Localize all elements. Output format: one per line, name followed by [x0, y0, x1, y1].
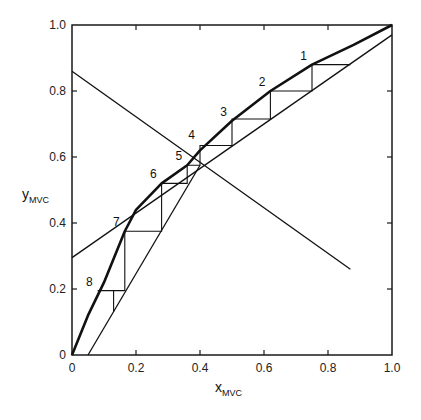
y-tick-label: 0.4	[49, 216, 66, 230]
x-tick-label: 0.4	[192, 361, 209, 375]
stage-label-6: 6	[150, 167, 157, 181]
plot-border	[72, 25, 392, 355]
stage-label-4: 4	[188, 128, 195, 142]
x-tick-label: 1.0	[384, 361, 401, 375]
chart-series	[72, 25, 392, 355]
stripping-operating-line	[88, 165, 200, 355]
x-tick-label: 0.6	[256, 361, 273, 375]
y-tick-label: 0	[59, 348, 66, 362]
y-tick-label: 0.6	[49, 150, 66, 164]
x-tick-label: 0.8	[320, 361, 337, 375]
q-line	[72, 71, 350, 269]
stage-label-3: 3	[220, 105, 227, 119]
y-axis-title: yMVC	[22, 186, 50, 205]
x-axis-title: xMVC	[215, 379, 243, 398]
x-tick-label: 0	[69, 361, 76, 375]
y-tick-label: 0.8	[49, 84, 66, 98]
axis-ticks: 00.20.40.60.81.000.20.40.60.81.0	[49, 18, 400, 375]
y-axis-subscript: MVC	[29, 195, 50, 205]
stage-label-1: 1	[300, 49, 307, 63]
stage-label-7: 7	[113, 215, 120, 229]
stage-label-8: 8	[86, 275, 93, 289]
x-axis-subscript: MVC	[222, 388, 243, 398]
y-tick-label: 1.0	[49, 18, 66, 32]
rectifying-operating-line	[72, 35, 392, 258]
equilibrium-curve	[72, 25, 392, 355]
x-tick-label: 0.2	[128, 361, 145, 375]
plot-frame	[72, 25, 392, 355]
mccabe-thiele-chart: 00.20.40.60.81.000.20.40.60.81.0 1234567…	[0, 0, 421, 420]
stage-label-2: 2	[259, 75, 266, 89]
stage-labels: 12345678	[86, 49, 307, 289]
y-tick-label: 0.2	[49, 282, 66, 296]
stage-label-5: 5	[176, 149, 183, 163]
